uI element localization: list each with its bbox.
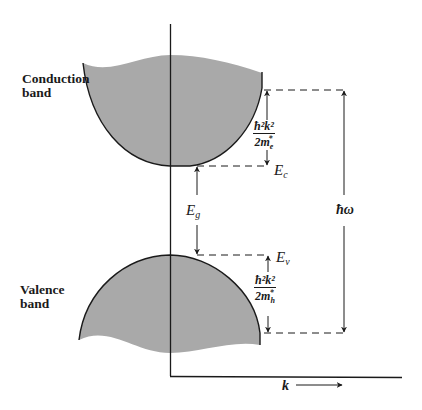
electron-kinetic-numerator: ħ²k² — [253, 120, 275, 134]
photon-energy-label: ħω — [336, 203, 354, 217]
k-axis-label: k — [282, 379, 289, 393]
eg-label: Eg — [186, 203, 200, 220]
ec-label: Ec — [274, 163, 288, 180]
ev-label: Ev — [276, 250, 290, 267]
valence-band-shape — [79, 255, 260, 353]
hole-kinetic-numerator: ħ²k² — [254, 274, 276, 288]
conduction-band-label: Conduction band — [22, 72, 90, 100]
electron-kinetic-energy-label: ħ²k² 2me* — [253, 120, 275, 151]
valence-band-label: Valence band — [20, 283, 65, 311]
conduction-band-shape — [83, 55, 262, 166]
band-diagram — [0, 0, 422, 410]
electron-kinetic-denominator: 2me* — [254, 134, 273, 151]
hole-kinetic-denominator: 2mh* — [255, 288, 275, 305]
hole-kinetic-energy-label: ħ²k² 2mh* — [254, 274, 276, 305]
